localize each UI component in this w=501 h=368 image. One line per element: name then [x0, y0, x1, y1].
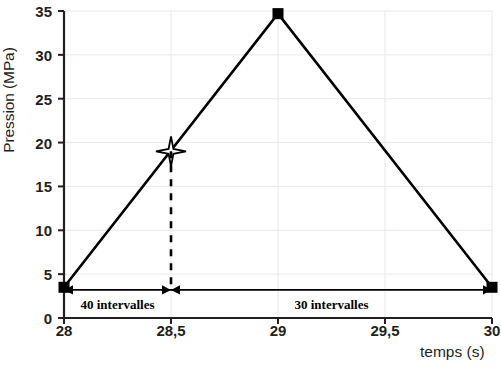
- arrow-head: [171, 285, 180, 294]
- gridlines: [64, 11, 492, 318]
- axis-ticks: [58, 11, 492, 324]
- plot-canvas: [0, 0, 501, 368]
- arrow-head: [162, 285, 171, 294]
- data-point-marker: [273, 8, 284, 19]
- chart-figure: Pression (MPa) temps (s) 05101520253035 …: [0, 0, 501, 368]
